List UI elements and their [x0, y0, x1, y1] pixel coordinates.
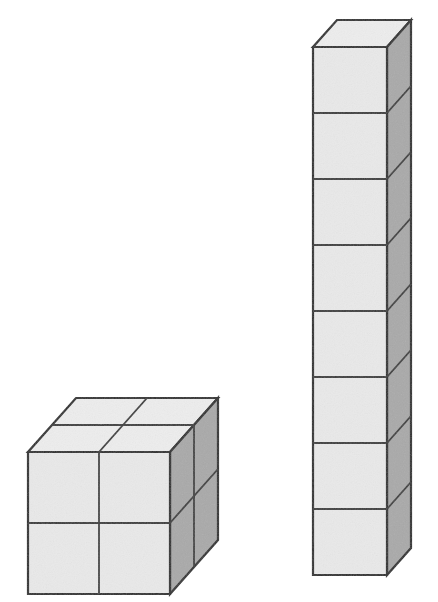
left-block-figure[interactable] — [28, 398, 218, 594]
right-tower-figure[interactable] — [313, 20, 411, 575]
figure-stage — [0, 0, 438, 602]
cube-scene — [0, 0, 438, 602]
